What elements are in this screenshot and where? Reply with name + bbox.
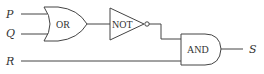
input-label-r: R — [5, 55, 14, 68]
not-gate-label: NOT — [112, 19, 133, 30]
and-gate: AND — [181, 34, 221, 65]
logic-circuit-diagram: P Q R OR NOT AND S — [0, 0, 264, 74]
not-gate: NOT — [110, 8, 149, 40]
input-label-q: Q — [6, 27, 15, 40]
output-label-s: S — [249, 43, 257, 56]
wire-not-to-and — [149, 24, 182, 39]
input-label-p: P — [5, 8, 14, 21]
and-gate-label: AND — [187, 44, 209, 55]
or-gate: OR — [44, 7, 87, 41]
or-gate-label: OR — [56, 19, 70, 30]
not-bubble — [145, 22, 149, 26]
